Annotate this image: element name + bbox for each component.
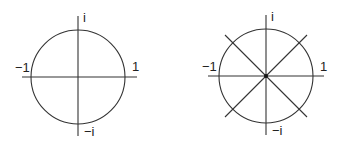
label-neg-1: −1 — [202, 59, 217, 74]
label-neg-i: −i — [84, 124, 95, 139]
left-unit-circle-diagram: i −i −1 1 — [15, 10, 139, 139]
label-1: 1 — [320, 59, 327, 74]
label-neg-i: −i — [272, 123, 283, 138]
right-unit-circle-diagram: i −i −1 1 — [202, 9, 327, 138]
label-i: i — [271, 9, 274, 24]
label-i: i — [83, 10, 86, 25]
center-dot — [264, 74, 268, 78]
label-neg-1: −1 — [15, 60, 30, 75]
label-1: 1 — [132, 59, 139, 74]
diagram-canvas: i −i −1 1 i −i −1 1 — [0, 0, 337, 145]
